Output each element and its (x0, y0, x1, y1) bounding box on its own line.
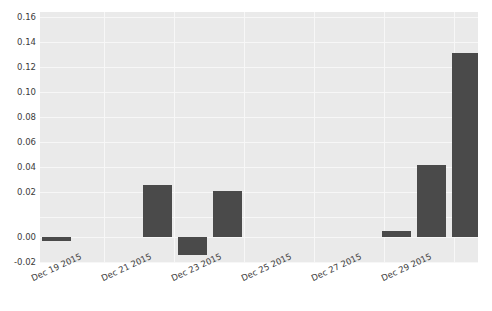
x-tick-label: Dec 27 2015 (310, 252, 363, 283)
x-tick-label: Dec 25 2015 (240, 252, 293, 283)
x-tick-label: Dec 21 2015 (100, 252, 153, 283)
x-tick-label: Dec 23 2015 (170, 252, 223, 283)
x-tick-label: Dec 19 2015 (30, 252, 83, 283)
x-tick-label: Dec 29 2015 (380, 252, 433, 283)
x-axis-tick-labels: Dec 19 2015 Dec 21 2015 Dec 23 2015 Dec … (0, 0, 492, 311)
bar-chart-figure: 0.16 0.14 0.12 0.10 0.08 0.06 0.04 0.02 … (0, 0, 492, 311)
